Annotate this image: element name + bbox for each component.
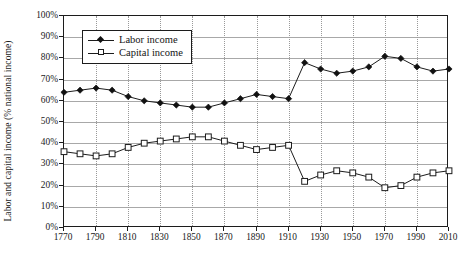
x-tick-label: 2010 [439, 232, 458, 242]
y-tick-label: 100% [18, 10, 58, 20]
y-tick-mark [59, 121, 63, 122]
data-point-diamond [350, 68, 356, 74]
x-tick-label: 1870 [214, 232, 233, 242]
data-point-square [61, 149, 67, 155]
data-point-square [238, 142, 244, 148]
filled-diamond-icon [88, 35, 114, 46]
x-tick-label: 1930 [310, 232, 329, 242]
x-tick-mark [448, 227, 449, 231]
data-point-diamond [237, 96, 243, 102]
data-point-diamond [157, 100, 163, 106]
data-point-diamond [93, 85, 99, 91]
y-tick-label: 10% [18, 201, 58, 211]
data-point-diamond [205, 104, 211, 110]
y-tick-mark [59, 142, 63, 143]
data-point-square [270, 145, 276, 151]
data-point-square [334, 168, 340, 174]
data-point-diamond [334, 70, 340, 76]
x-tick-label: 1810 [118, 232, 137, 242]
data-point-square [157, 138, 163, 144]
y-tick-mark [59, 185, 63, 186]
data-point-square [173, 136, 179, 142]
y-tick-label: 50% [18, 116, 58, 126]
data-point-square [93, 153, 99, 159]
open-square-icon [88, 48, 114, 59]
y-tick-mark [59, 15, 63, 16]
x-tick-label: 1830 [150, 232, 169, 242]
x-tick-mark [63, 227, 64, 231]
y-tick-label: 40% [18, 137, 58, 147]
y-tick-label: 90% [18, 31, 58, 41]
x-tick-label: 1950 [342, 232, 361, 242]
data-point-square [141, 140, 147, 146]
data-point-square [414, 174, 420, 180]
series-line [64, 137, 449, 188]
x-tick-label: 1990 [407, 232, 426, 242]
data-point-square [286, 142, 292, 148]
series-capital-income [61, 134, 452, 191]
x-tick-mark [256, 227, 257, 231]
data-point-square [254, 147, 260, 153]
y-tick-label: 0% [18, 222, 58, 232]
chart-root: Labor and capital income (% national inc… [0, 0, 472, 262]
x-tick-mark [223, 227, 224, 231]
data-point-diamond [302, 60, 308, 66]
legend-label-labor-income: Labor income [118, 34, 178, 47]
data-point-square [302, 178, 308, 184]
x-tick-label: 1850 [182, 232, 201, 242]
y-tick-mark [59, 57, 63, 58]
y-tick-mark [59, 36, 63, 37]
data-point-diamond [253, 91, 259, 97]
data-point-square [125, 145, 131, 151]
data-point-diamond [318, 66, 324, 72]
data-point-square [205, 134, 211, 140]
y-tick-mark [59, 100, 63, 101]
data-point-diamond [77, 87, 83, 93]
data-point-square [366, 174, 372, 180]
data-point-diamond [189, 104, 195, 110]
x-tick-label: 1890 [246, 232, 265, 242]
x-tick-mark [191, 227, 192, 231]
y-tick-label: 30% [18, 158, 58, 168]
x-tick-mark [384, 227, 385, 231]
x-tick-mark [95, 227, 96, 231]
x-tick-label: 1910 [278, 232, 297, 242]
data-point-diamond [125, 93, 131, 99]
data-point-diamond [173, 102, 179, 108]
data-point-diamond [61, 89, 67, 95]
y-tick-mark [59, 206, 63, 207]
chart-legend: Labor income Capital income [82, 30, 192, 64]
data-point-square [77, 151, 83, 157]
data-point-diamond [446, 66, 452, 72]
x-tick-mark [352, 227, 353, 231]
data-point-diamond [398, 55, 404, 61]
series-line [64, 56, 449, 107]
data-point-square [430, 170, 436, 176]
y-tick-label: 20% [18, 180, 58, 190]
y-tick-mark [59, 79, 63, 80]
data-point-diamond [366, 64, 372, 70]
data-point-diamond [221, 100, 227, 106]
y-tick-label: 70% [18, 74, 58, 84]
legend-item-labor-income: Labor income [88, 34, 183, 47]
data-point-diamond [430, 68, 436, 74]
x-tick-label: 1970 [374, 232, 393, 242]
data-point-diamond [414, 64, 420, 70]
legend-label-capital-income: Capital income [118, 47, 183, 60]
y-axis-title: Labor and capital income (% national inc… [0, 0, 16, 262]
data-point-diamond [285, 96, 291, 102]
data-point-diamond [382, 53, 388, 59]
x-tick-mark [159, 227, 160, 231]
data-point-square [398, 183, 404, 189]
data-point-square [382, 185, 388, 191]
x-tick-label: 1790 [86, 232, 105, 242]
x-tick-mark [416, 227, 417, 231]
legend-item-capital-income: Capital income [88, 47, 183, 60]
data-point-diamond [109, 87, 115, 93]
x-tick-mark [288, 227, 289, 231]
data-point-square [318, 172, 324, 178]
data-point-square [109, 151, 115, 157]
y-tick-label: 60% [18, 95, 58, 105]
data-point-diamond [141, 98, 147, 104]
data-point-square [446, 168, 452, 174]
